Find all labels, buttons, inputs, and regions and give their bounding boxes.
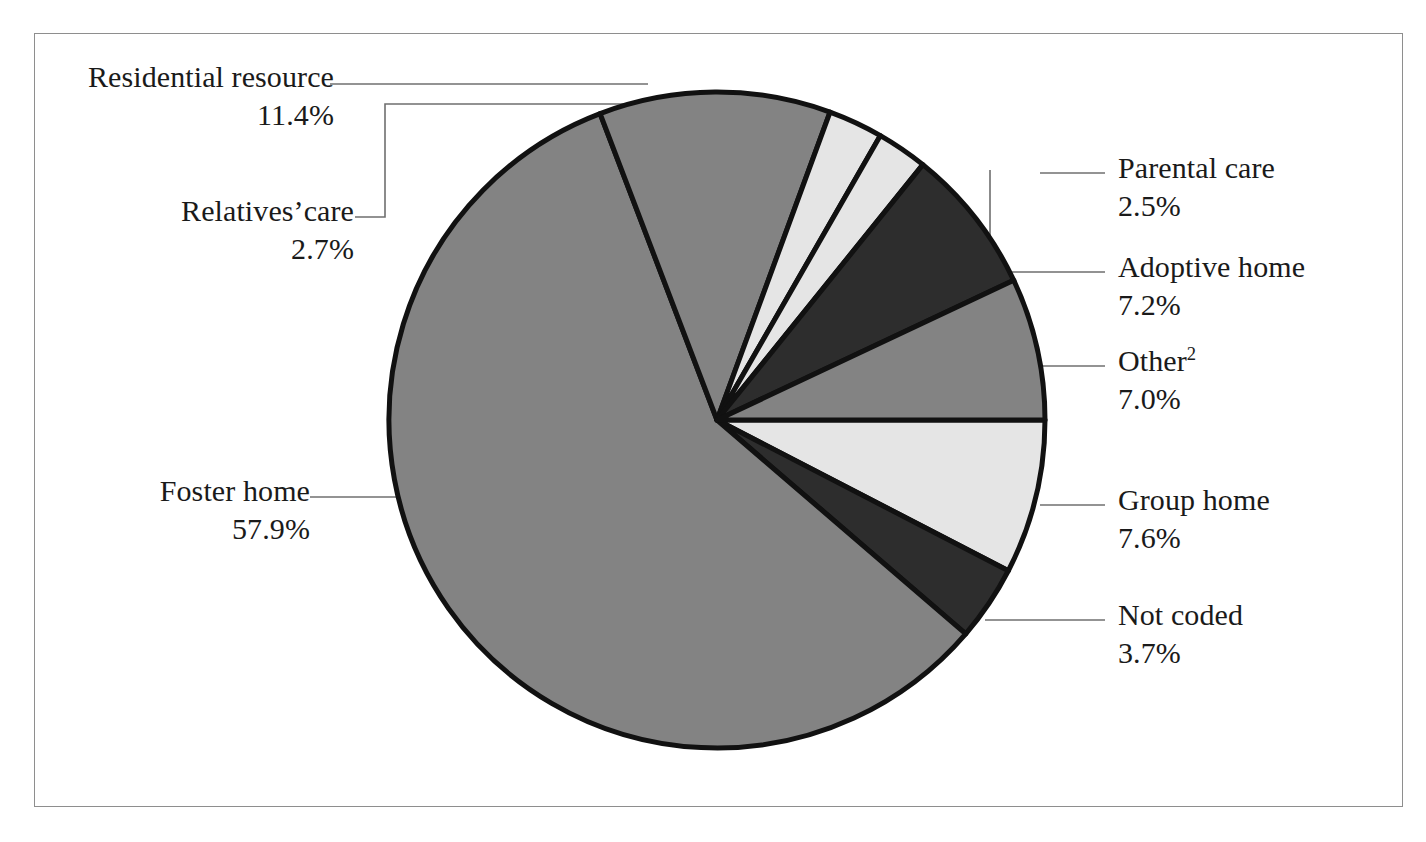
label-adoptive-home: Adoptive home 7.2% bbox=[1118, 248, 1305, 325]
label-group-home-value: 7.6% bbox=[1118, 519, 1270, 557]
leader-line-adoptive-home bbox=[990, 170, 1105, 272]
label-foster-home: Foster home 57.9% bbox=[10, 472, 310, 549]
label-parental-care-value: 2.5% bbox=[1118, 187, 1275, 225]
label-group-home-name: Group home bbox=[1118, 481, 1270, 519]
label-relatives-care-name: Relatives’care bbox=[34, 192, 354, 230]
label-not-coded-name: Not coded bbox=[1118, 596, 1243, 634]
label-other-footnote-marker: 2 bbox=[1187, 343, 1196, 364]
label-not-coded-value: 3.7% bbox=[1118, 634, 1243, 672]
label-other-text: Other bbox=[1118, 344, 1187, 377]
pie-chart-figure: Residential resource 11.4% Relatives’car… bbox=[0, 0, 1426, 842]
label-not-coded: Not coded 3.7% bbox=[1118, 596, 1243, 673]
label-residential-resource-name: Residential resource bbox=[34, 58, 334, 96]
label-other-value: 7.0% bbox=[1118, 380, 1196, 418]
label-adoptive-home-value: 7.2% bbox=[1118, 286, 1305, 324]
label-foster-home-name: Foster home bbox=[10, 472, 310, 510]
label-foster-home-value: 57.9% bbox=[10, 510, 310, 548]
label-parental-care: Parental care 2.5% bbox=[1118, 149, 1275, 226]
label-residential-resource: Residential resource 11.4% bbox=[34, 58, 334, 135]
label-adoptive-home-name: Adoptive home bbox=[1118, 248, 1305, 286]
label-relatives-care: Relatives’care 2.7% bbox=[34, 192, 354, 269]
pie-slice-group bbox=[389, 92, 1045, 748]
label-other-name: Other2 bbox=[1118, 342, 1196, 380]
label-relatives-care-value: 2.7% bbox=[34, 230, 354, 268]
label-other: Other2 7.0% bbox=[1118, 342, 1196, 419]
label-residential-resource-value: 11.4% bbox=[34, 96, 334, 134]
label-group-home: Group home 7.6% bbox=[1118, 481, 1270, 558]
label-parental-care-name: Parental care bbox=[1118, 149, 1275, 187]
